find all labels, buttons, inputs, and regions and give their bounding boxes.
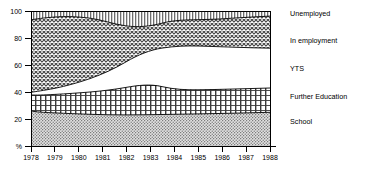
x-tick-label-1988: 1988 — [262, 154, 278, 161]
legend-label-yts: YTS — [290, 64, 304, 73]
legend-label-school: School — [290, 117, 312, 126]
y-tick-label-100: 100 — [10, 8, 22, 15]
y-axis-ticks — [25, 11, 31, 146]
x-tick-label-1987: 1987 — [238, 154, 254, 161]
legend-label-further-education: Further Education — [290, 92, 347, 101]
x-tick-label-1982: 1982 — [119, 154, 135, 161]
x-tick-label-1984: 1984 — [167, 154, 183, 161]
y-tick-label-40: 40 — [14, 89, 22, 96]
chart-canvas: 100 80 60 40 20 % 1978 1979 1980 1981 19… — [0, 0, 365, 171]
x-tick-label-1978: 1978 — [23, 154, 39, 161]
y-tick-label-80: 80 — [14, 35, 22, 42]
x-tick-label-1983: 1983 — [143, 154, 159, 161]
y-tick-label-20: 20 — [14, 116, 22, 123]
x-tick-label-1980: 1980 — [71, 154, 87, 161]
legend-label-in-employment: In employment — [290, 36, 337, 45]
y-tick-label-60: 60 — [14, 62, 22, 69]
x-tick-label-1985: 1985 — [191, 154, 207, 161]
x-tick-label-1981: 1981 — [95, 154, 111, 161]
area-bands — [31, 11, 270, 146]
x-axis-ticks — [31, 147, 270, 153]
x-tick-label-1986: 1986 — [214, 154, 230, 161]
band-school — [31, 111, 270, 146]
legend-label-unemployed: Unemployed — [290, 9, 330, 18]
x-tick-label-1979: 1979 — [47, 154, 63, 161]
stacked-area-chart: 100 80 60 40 20 % 1978 1979 1980 1981 19… — [0, 0, 365, 171]
y-axis-unit-label: % — [16, 143, 22, 150]
